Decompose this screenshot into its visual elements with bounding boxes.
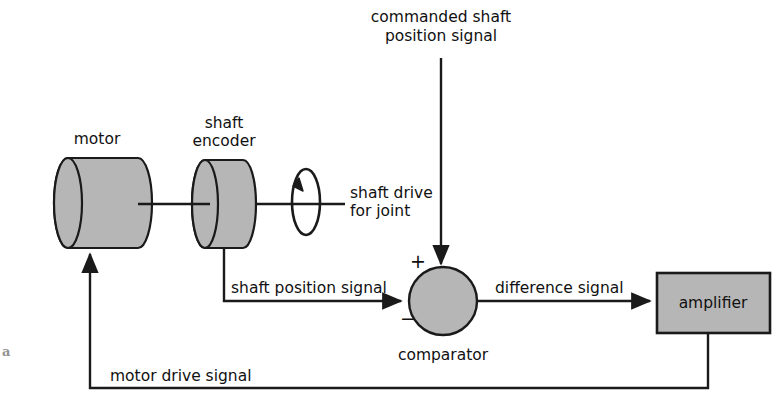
shaft-encoder-label-line1: shaft	[205, 114, 244, 132]
amplifier-label: amplifier	[679, 294, 748, 312]
shaft-drive-label-line2: for joint	[350, 202, 410, 220]
shaft-encoder-label-line2: encoder	[192, 132, 256, 150]
figure-corner-mark: a	[2, 344, 11, 359]
motor-block[interactable]	[54, 158, 152, 248]
commanded-signal-label-line1: commanded shaft	[371, 8, 511, 26]
rotation-ellipse	[292, 169, 320, 235]
motor-label: motor	[74, 130, 121, 148]
comparator-circle	[409, 267, 477, 335]
shaft-position-signal-label: shaft position signal	[231, 279, 387, 297]
motor-cylinder-cap	[54, 158, 82, 248]
comparator-block[interactable]	[409, 267, 477, 335]
comparator-label: comparator	[398, 346, 489, 364]
commanded-signal-label-line2: position signal	[385, 27, 497, 45]
rotation-arrow-icon	[292, 169, 320, 235]
difference-signal-label: difference signal	[495, 279, 624, 297]
motor-drive-signal-label: motor drive signal	[110, 367, 251, 385]
control-block-diagram: motor shaft encoder shaft drive for join…	[0, 0, 783, 413]
figure-canvas: motor shaft encoder shaft drive for join…	[0, 0, 783, 413]
comparator-plus-sign: +	[410, 250, 426, 272]
shaft-drive-label-line1: shaft drive	[350, 184, 433, 202]
